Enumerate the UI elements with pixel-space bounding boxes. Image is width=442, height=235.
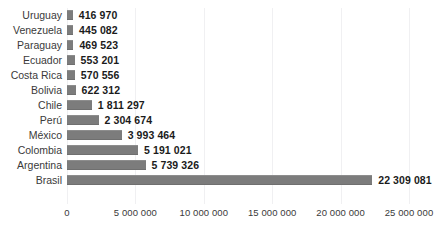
bar-rows: 416 970445 082469 523553 201570 556622 3… bbox=[67, 8, 409, 204]
bar-value-label: 553 201 bbox=[81, 53, 120, 67]
x-tick-label: 25 000 000 bbox=[385, 206, 434, 220]
bar bbox=[67, 130, 122, 140]
bar-value-label: 3 993 464 bbox=[128, 128, 176, 142]
bar-value-label: 2 304 674 bbox=[105, 113, 153, 127]
bar-row: 622 312 bbox=[67, 83, 409, 98]
bar bbox=[67, 55, 75, 65]
category-label: Costa Rica bbox=[0, 68, 62, 83]
category-label: México bbox=[0, 128, 62, 143]
bar bbox=[67, 100, 92, 110]
category-axis-labels: UruguayVenezuelaParaguayEcuadorCosta Ric… bbox=[0, 8, 62, 204]
category-label: Perú bbox=[0, 113, 62, 128]
x-tick-label: 20 000 000 bbox=[316, 206, 365, 220]
bar-row: 553 201 bbox=[67, 53, 409, 68]
bar-value-label: 5 739 326 bbox=[152, 158, 200, 172]
bar-row: 1 811 297 bbox=[67, 98, 409, 113]
bar-row: 416 970 bbox=[67, 8, 409, 23]
bar-row: 445 082 bbox=[67, 23, 409, 38]
bar-value-label: 570 556 bbox=[81, 68, 120, 82]
x-tick-label: 10 000 000 bbox=[180, 206, 229, 220]
x-tick-label: 15 000 000 bbox=[248, 206, 297, 220]
category-label: Uruguay bbox=[0, 8, 62, 23]
bar bbox=[67, 25, 73, 35]
category-label: Bolivia bbox=[0, 83, 62, 98]
category-label: Colombia bbox=[0, 143, 62, 158]
bar-row: 2 304 674 bbox=[67, 113, 409, 128]
category-label: Brasil bbox=[0, 173, 62, 188]
bar-row: 570 556 bbox=[67, 68, 409, 83]
bar-value-label: 469 523 bbox=[79, 38, 118, 52]
category-label: Argentina bbox=[0, 158, 62, 173]
bar bbox=[67, 10, 73, 20]
plot-area: 416 970445 082469 523553 201570 556622 3… bbox=[67, 8, 409, 204]
category-label: Chile bbox=[0, 98, 62, 113]
chart-title-sliver bbox=[118, 0, 328, 4]
bar-value-label: 1 811 297 bbox=[98, 98, 145, 112]
bar-row: 22 309 081 bbox=[67, 173, 409, 188]
x-tick-label: 0 bbox=[64, 206, 69, 220]
bar-row: 5 739 326 bbox=[67, 158, 409, 173]
bar bbox=[67, 70, 75, 80]
bar-value-label: 622 312 bbox=[82, 83, 121, 97]
category-label: Ecuador bbox=[0, 53, 62, 68]
bar-row: 3 993 464 bbox=[67, 128, 409, 143]
bar bbox=[67, 115, 99, 125]
category-label: Paraguay bbox=[0, 38, 62, 53]
bar-value-label: 445 082 bbox=[79, 23, 118, 37]
bar bbox=[67, 160, 146, 170]
bar-value-label: 5 191 021 bbox=[144, 143, 192, 157]
bar bbox=[67, 175, 372, 185]
bar-value-label: 416 970 bbox=[79, 8, 118, 22]
category-label: Venezuela bbox=[0, 23, 62, 38]
bar-row: 5 191 021 bbox=[67, 143, 409, 158]
bar-row: 469 523 bbox=[67, 38, 409, 53]
x-axis-tick-labels: 05 000 00010 000 00015 000 00020 000 000… bbox=[67, 206, 409, 222]
bar bbox=[67, 85, 76, 95]
bar-chart: UruguayVenezuelaParaguayEcuadorCosta Ric… bbox=[0, 0, 442, 235]
x-tick-label: 5 000 000 bbox=[114, 206, 157, 220]
bar bbox=[67, 145, 138, 155]
bar-value-label: 22 309 081 bbox=[378, 173, 432, 187]
bar bbox=[67, 40, 73, 50]
